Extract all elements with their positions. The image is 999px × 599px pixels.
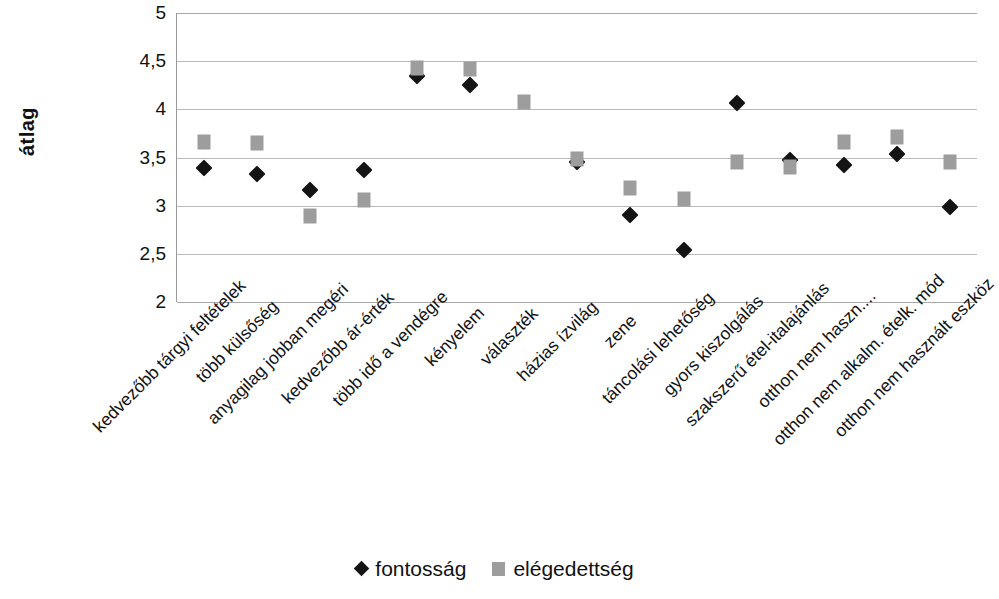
data-point-square: [677, 191, 690, 206]
data-point-diamond: [198, 162, 210, 174]
diamond-marker-icon: [302, 182, 319, 199]
y-axis-tick-label: 5: [106, 2, 166, 24]
square-marker-icon: [517, 94, 530, 109]
legend-item-elégedettség[interactable]: elégedettség: [492, 558, 633, 579]
data-point-square: [197, 135, 210, 150]
diamond-marker-icon: [249, 165, 266, 182]
diamond-marker-icon: [195, 160, 212, 177]
diamond-marker-icon: [355, 162, 372, 179]
square-marker-icon: [411, 60, 424, 75]
legend-label: elégedettség: [513, 558, 633, 579]
legend-item-fontosság[interactable]: fontosság: [356, 558, 466, 579]
gridline: [177, 254, 977, 255]
diamond-marker-icon: [835, 157, 852, 174]
data-point-square: [251, 136, 264, 151]
data-point-diamond: [731, 97, 743, 109]
diamond-marker-icon: [942, 198, 959, 215]
data-point-square: [624, 181, 637, 196]
gridline: [177, 61, 977, 62]
data-point-square: [571, 152, 584, 167]
data-point-square: [517, 94, 530, 109]
data-point-square: [731, 155, 744, 170]
square-marker-icon: [197, 135, 210, 150]
data-point-diamond: [251, 168, 263, 180]
y-axis-title: átlag: [16, 87, 39, 177]
gridline: [177, 109, 977, 110]
square-marker-icon: [624, 181, 637, 196]
data-point-diamond: [464, 79, 476, 91]
diamond-marker-icon: [354, 561, 370, 577]
data-point-square: [411, 60, 424, 75]
diamond-marker-icon: [889, 145, 906, 162]
legend-label: fontosság: [375, 558, 466, 579]
square-marker-icon: [357, 192, 370, 207]
data-point-diamond: [838, 159, 850, 171]
square-marker-icon: [492, 562, 505, 576]
data-point-diamond: [358, 164, 370, 176]
y-axis-tick-label: 2,5: [106, 243, 166, 265]
plot-area: [176, 13, 977, 302]
data-point-diamond: [891, 148, 903, 160]
square-marker-icon: [784, 160, 797, 175]
y-axis-tick-label: 4,5: [106, 50, 166, 72]
y-axis-tick-label: 3,5: [106, 147, 166, 169]
data-point-diamond: [624, 209, 636, 221]
diamond-marker-icon: [622, 207, 639, 224]
square-marker-icon: [251, 136, 264, 151]
square-marker-icon: [891, 130, 904, 145]
data-point-square: [784, 160, 797, 175]
gridline: [177, 206, 977, 207]
x-axis-label: zene: [600, 311, 642, 353]
data-point-square: [357, 192, 370, 207]
data-point-square: [464, 61, 477, 76]
square-marker-icon: [677, 191, 690, 206]
diamond-marker-icon: [675, 241, 692, 258]
square-marker-icon: [304, 209, 317, 224]
chart-legend: fontosságelégedettség: [0, 558, 990, 579]
data-point-square: [837, 135, 850, 150]
x-axis-category-labels: kedvezőbb tárgyi feltételektöbb külsőség…: [0, 302, 990, 552]
square-marker-icon: [571, 152, 584, 167]
diamond-marker-icon: [729, 94, 746, 111]
data-point-square: [304, 209, 317, 224]
data-point-square: [891, 130, 904, 145]
data-point-diamond: [944, 201, 956, 213]
data-point-diamond: [678, 244, 690, 256]
gridline: [177, 13, 977, 14]
square-marker-icon: [837, 135, 850, 150]
diamond-marker-icon: [462, 77, 479, 94]
data-point-diamond: [304, 184, 316, 196]
square-marker-icon: [944, 155, 957, 170]
data-point-square: [944, 155, 957, 170]
square-marker-icon: [731, 155, 744, 170]
y-axis-tick-label: 3: [106, 195, 166, 217]
square-marker-icon: [464, 61, 477, 76]
y-axis-tick-label: 4: [106, 98, 166, 120]
y-axis-tick-labels: 22,533,544,55: [100, 13, 166, 302]
